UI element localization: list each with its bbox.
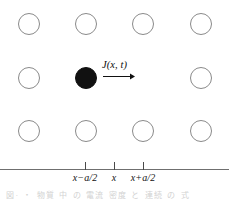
lattice-site-empty: [75, 120, 97, 142]
lattice-site-empty: [190, 120, 212, 142]
lattice-site-empty: [190, 67, 212, 89]
lattice-current-figure: J(x, t) x−a/2xx+a/2 図· ・ 物質 中 の 電流 密度 と …: [0, 0, 229, 199]
current-arrow-icon: [103, 73, 135, 80]
lattice-site-empty: [132, 120, 154, 142]
lattice-site-occupied: [75, 67, 97, 89]
lattice-site-empty: [18, 13, 40, 35]
lattice-site-empty: [190, 13, 212, 35]
axis-tick-label: x: [112, 172, 117, 183]
lattice-site-empty: [75, 13, 97, 35]
axis-tick-label: x+a/2: [131, 172, 155, 183]
axis-tick-mark: [85, 162, 86, 170]
lattice-site-empty: [132, 13, 154, 35]
axis-tick-label: x−a/2: [73, 172, 97, 183]
lattice-site-empty: [18, 67, 40, 89]
axis-tick-mark: [114, 162, 115, 170]
current-label: J(x, t): [102, 59, 127, 70]
axis-tick-mark: [143, 162, 144, 170]
figure-caption: 図· ・ 物質 中 の 電流 密度 と 連続 の 式: [6, 189, 226, 199]
lattice-site-empty: [18, 120, 40, 142]
